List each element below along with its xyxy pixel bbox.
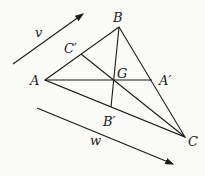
vector-v: [13, 14, 83, 64]
median-c-cprime: [81, 54, 185, 137]
triangle-diagram: v B C′ A G A′ B′ w C: [0, 0, 205, 176]
label-c: C: [188, 134, 198, 149]
label-v: v: [35, 25, 43, 40]
label-c-prime: C′: [64, 41, 77, 56]
diagram-svg: v B C′ A G A′ B′ w C: [0, 0, 205, 176]
label-a: A: [29, 73, 39, 88]
label-b: B: [112, 10, 123, 25]
label-w: w: [90, 133, 101, 148]
label-b-prime: B′: [102, 114, 116, 129]
label-g: G: [117, 66, 127, 81]
label-a-prime: A′: [158, 73, 171, 88]
